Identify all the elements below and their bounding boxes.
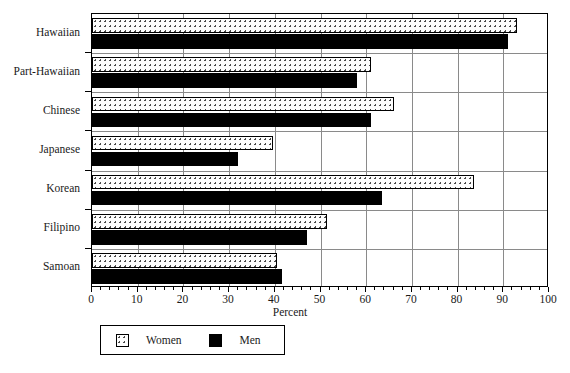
x-tick-minor (265, 287, 266, 290)
legend-item-men: Men (209, 326, 260, 354)
x-tick-minor (109, 287, 110, 290)
x-tick-minor (146, 287, 147, 290)
x-tick-minor (484, 287, 485, 290)
x-tick-minor (310, 287, 311, 290)
x-tick-minor (155, 287, 156, 290)
x-axis-title-text: Percent (273, 306, 307, 318)
x-tick-minor (347, 287, 348, 290)
x-tick-minor (429, 287, 430, 290)
x-tick-minor (539, 287, 540, 290)
x-tick-minor (246, 287, 247, 290)
x-tick-minor (521, 287, 522, 290)
x-axis-title: Percent (0, 306, 570, 318)
y-axis-tick (85, 248, 91, 249)
x-tick-label-20: 20 (162, 293, 202, 305)
x-tick-minor (192, 287, 193, 290)
x-tick-minor (393, 287, 394, 290)
x-tick-major (411, 287, 412, 292)
gridline (275, 14, 276, 286)
x-tick-minor (301, 287, 302, 290)
x-tick-label-0: 0 (71, 293, 111, 305)
legend-label-men: Men (239, 334, 260, 346)
y-axis-tick (85, 52, 91, 53)
bar-filipino-women (92, 214, 327, 229)
y-axis-tick (85, 91, 91, 92)
x-tick-minor (128, 287, 129, 290)
x-tick-minor (173, 287, 174, 290)
plot-area (91, 13, 548, 287)
category-label-hawaiian: Hawaiian (0, 27, 86, 39)
y-axis-tick (85, 170, 91, 171)
x-tick-label-100: 100 (528, 293, 568, 305)
category-separator (92, 131, 547, 132)
bar-samoan-men (92, 269, 282, 284)
bar-hawaiian-women (92, 18, 517, 33)
gridline (458, 14, 459, 286)
x-tick-minor (118, 287, 119, 290)
category-label-chinese: Chinese (0, 105, 86, 117)
plot-inner (92, 14, 547, 286)
category-label-filipino: Filipino (0, 222, 86, 234)
x-tick-minor (511, 287, 512, 290)
x-tick-minor (338, 287, 339, 290)
x-tick-major (502, 287, 503, 292)
bar-chinese-men (92, 113, 371, 128)
bar-korean-men (92, 191, 382, 206)
x-tick-minor (329, 287, 330, 290)
category-label-korean: Korean (0, 183, 86, 195)
x-tick-minor (475, 287, 476, 290)
x-tick-minor (374, 287, 375, 290)
category-label-part-hawaiian: Part-Hawaiian (0, 66, 86, 78)
x-tick-minor (383, 287, 384, 290)
chart-legend: Women Men (100, 325, 285, 355)
y-axis-tick (85, 130, 91, 131)
bar-part-hawaiian-women (92, 57, 371, 72)
x-tick-minor (256, 287, 257, 290)
category-separator (92, 53, 547, 54)
x-tick-label-70: 70 (391, 293, 431, 305)
bar-samoan-women (92, 253, 277, 268)
x-tick-minor (447, 287, 448, 290)
x-tick-minor (210, 287, 211, 290)
gridline (321, 14, 322, 286)
x-tick-major (182, 287, 183, 292)
x-tick-label-60: 60 (345, 293, 385, 305)
y-axis-tick (85, 209, 91, 210)
x-tick-minor (219, 287, 220, 290)
x-tick-label-10: 10 (117, 293, 157, 305)
black-swatch-icon (209, 334, 222, 347)
x-tick-major (548, 287, 549, 292)
x-tick-major (365, 287, 366, 292)
x-tick-label-90: 90 (482, 293, 522, 305)
bar-chart-figure: HawaiianPart-HawaiianChineseJapaneseKore… (0, 0, 570, 373)
x-tick-minor (420, 287, 421, 290)
x-tick-minor (237, 287, 238, 290)
category-separator (92, 210, 547, 211)
x-tick-minor (100, 287, 101, 290)
category-label-samoan: Samoan (0, 261, 86, 273)
x-tick-minor (402, 287, 403, 290)
x-tick-minor (530, 287, 531, 290)
x-tick-minor (164, 287, 165, 290)
category-separator (92, 92, 547, 93)
x-tick-major (228, 287, 229, 292)
x-tick-major (91, 287, 92, 292)
x-tick-label-40: 40 (254, 293, 294, 305)
legend-label-women: Women (146, 334, 181, 346)
bar-part-hawaiian-men (92, 73, 357, 88)
bar-korean-women (92, 175, 474, 190)
dotted-swatch-icon (116, 334, 129, 347)
category-separator (92, 171, 547, 172)
x-tick-minor (493, 287, 494, 290)
bar-filipino-men (92, 230, 307, 245)
category-label-japanese: Japanese (0, 144, 86, 156)
x-tick-major (457, 287, 458, 292)
x-tick-label-80: 80 (437, 293, 477, 305)
x-axis-ticks: 0102030405060708090100 (0, 287, 570, 307)
x-tick-minor (283, 287, 284, 290)
x-tick-minor (201, 287, 202, 290)
bar-japanese-men (92, 152, 238, 167)
gridline (503, 14, 504, 286)
x-tick-major (274, 287, 275, 292)
bar-japanese-women (92, 136, 273, 151)
